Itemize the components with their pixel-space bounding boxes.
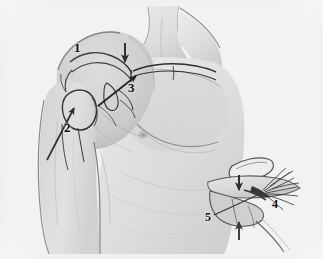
illustration-canvas (0, 0, 323, 259)
label-1: 1 (74, 41, 81, 54)
label-3: 3 (128, 81, 135, 94)
scan-vignette (0, 0, 323, 259)
anatomical-figure: 1 2 3 4 5 (0, 0, 323, 259)
label-2: 2 (64, 121, 71, 134)
label-5: 5 (205, 211, 211, 223)
label-4: 4 (272, 198, 278, 210)
